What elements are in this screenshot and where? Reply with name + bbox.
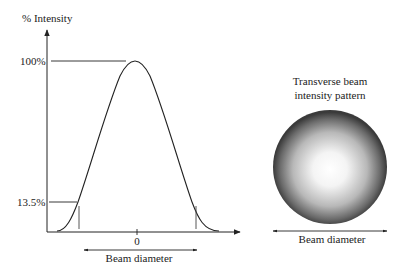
x-axis-label: Beam diameter	[106, 252, 173, 264]
beam-spot	[273, 110, 387, 224]
pattern-title-line2: intensity pattern	[294, 89, 366, 101]
threshold-label: 13.5%	[17, 196, 45, 208]
spot-diameter-label: Beam diameter	[299, 233, 366, 245]
gaussian-curve	[57, 61, 219, 231]
pattern-title-line1: Transverse beam	[293, 75, 368, 87]
x-origin-label: 0	[134, 235, 140, 247]
y-axis-label: % Intensity	[22, 12, 73, 24]
peak-label: 100%	[20, 55, 46, 67]
gaussian-beam-diagram: % Intensity 100% 13.5% 0 Beam diameter T…	[0, 0, 408, 270]
transverse-pattern: Transverse beam intensity pattern Beam d…	[273, 75, 387, 245]
intensity-profile-graph: % Intensity 100% 13.5% 0 Beam diameter	[17, 12, 240, 264]
